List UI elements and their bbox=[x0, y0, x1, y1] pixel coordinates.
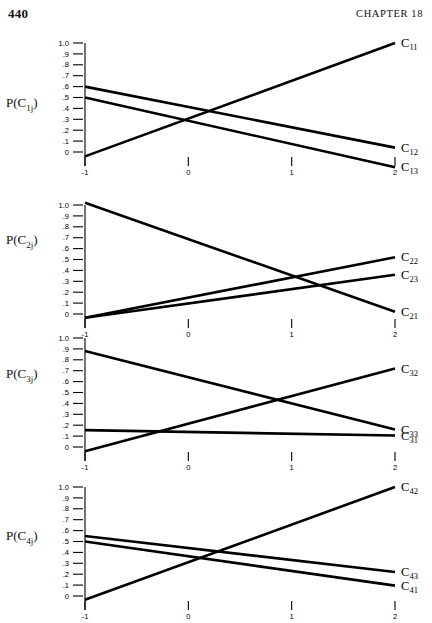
x-axis-tick-label: 1 bbox=[290, 463, 294, 472]
series-label-base: C bbox=[401, 362, 409, 376]
x-axis-tick-label: 1 bbox=[290, 612, 294, 621]
series-label-C11: C11 bbox=[401, 36, 418, 52]
series-label-subscript: 32 bbox=[409, 368, 418, 378]
series-label-subscript: 43 bbox=[409, 571, 418, 581]
y-axis-tick-label: 0 bbox=[65, 592, 69, 601]
series-label-C23: C23 bbox=[401, 268, 418, 284]
series-label-base: C bbox=[401, 250, 409, 264]
series-label-subscript: 11 bbox=[409, 42, 417, 52]
x-axis-tick-label: 2 bbox=[393, 612, 397, 621]
plot-area-1: 1.0.9.8.7.6.5.4.3.2.10-1012C11C12C13 bbox=[0, 28, 432, 188]
y-axis-tick-label: .7 bbox=[63, 233, 69, 242]
y-axis-tick-label: .1 bbox=[63, 299, 69, 308]
y-axis-tick-label: .7 bbox=[63, 366, 69, 375]
series-line-C22 bbox=[85, 257, 395, 317]
series-label-subscript: 13 bbox=[409, 166, 418, 176]
series-label-subscript: 22 bbox=[409, 256, 418, 266]
y-axis-tick-label: .4 bbox=[63, 104, 69, 113]
series-label-base: C bbox=[401, 429, 409, 443]
y-axis-tick-label: .8 bbox=[63, 60, 69, 69]
series-label-subscript: 21 bbox=[409, 311, 418, 321]
y-axis-tick-label: .8 bbox=[63, 355, 69, 364]
series-label-subscript: 42 bbox=[409, 486, 418, 496]
series-label-subscript: 12 bbox=[409, 147, 418, 157]
series-label-base: C bbox=[401, 141, 409, 155]
chart-panel-4: P(C4j)1.0.9.8.7.6.5.4.3.2.10-1012C42C43C… bbox=[0, 472, 432, 623]
x-axis-tick-label: 2 bbox=[393, 168, 397, 177]
series-label-C13: C13 bbox=[401, 160, 418, 176]
series-label-base: C bbox=[401, 36, 409, 50]
y-axis-tick-label: .5 bbox=[63, 537, 69, 546]
y-axis-tick-label: .3 bbox=[63, 277, 69, 286]
y-axis-tick-label: 0 bbox=[65, 443, 69, 452]
y-axis-tick-label: 1.0 bbox=[58, 201, 69, 210]
series-label-C21: C21 bbox=[401, 305, 418, 321]
y-axis-tick-label: .9 bbox=[63, 50, 69, 59]
series-label-base: C bbox=[401, 305, 409, 319]
y-axis-tick-label: .3 bbox=[63, 410, 69, 419]
series-label-base: C bbox=[401, 565, 409, 579]
y-axis-tick-label: 1.0 bbox=[58, 334, 69, 343]
series-label-base: C bbox=[401, 579, 409, 593]
series-label-base: C bbox=[401, 160, 409, 174]
y-axis-tick-label: .8 bbox=[63, 222, 69, 231]
y-axis-tick-label: .6 bbox=[63, 377, 69, 386]
x-axis-tick-label: 1 bbox=[290, 168, 294, 177]
y-axis-tick-label: .2 bbox=[63, 288, 69, 297]
running-head: 440 CHAPTER 18 bbox=[0, 6, 432, 24]
page-number: 440 bbox=[8, 6, 28, 22]
series-line-C43 bbox=[85, 536, 395, 572]
plot-area-3: 1.0.9.8.7.6.5.4.3.2.10-1012C32C33C31 bbox=[0, 323, 432, 483]
y-axis-tick-label: .8 bbox=[63, 504, 69, 513]
chart-panel-1: P(C1j)1.0.9.8.7.6.5.4.3.2.10-1012C11C12C… bbox=[0, 28, 432, 188]
plot-area-4: 1.0.9.8.7.6.5.4.3.2.10-1012C42C43C41 bbox=[0, 472, 432, 623]
y-axis-tick-label: 0 bbox=[65, 310, 69, 319]
series-label-C22: C22 bbox=[401, 250, 418, 266]
y-axis-tick-label: .4 bbox=[63, 266, 69, 275]
y-axis-tick-label: .9 bbox=[63, 212, 69, 221]
series-label-subscript: 31 bbox=[409, 435, 418, 445]
x-axis-tick-label: -1 bbox=[82, 612, 89, 621]
y-axis-tick-label: .5 bbox=[63, 255, 69, 264]
y-axis-tick-label: .2 bbox=[63, 421, 69, 430]
x-axis-tick-label: 2 bbox=[393, 463, 397, 472]
y-axis-tick-label: .7 bbox=[63, 71, 69, 80]
y-axis-tick-label: .3 bbox=[63, 559, 69, 568]
y-axis-tick-label: 1.0 bbox=[58, 483, 69, 492]
x-axis-tick-label: 0 bbox=[186, 168, 190, 177]
y-axis-tick-label: 0 bbox=[65, 148, 69, 157]
y-axis-tick-label: .7 bbox=[63, 515, 69, 524]
series-line-C42 bbox=[85, 487, 395, 600]
y-axis-tick-label: .5 bbox=[63, 93, 69, 102]
x-axis-tick-label: -1 bbox=[82, 168, 89, 177]
series-line-C13 bbox=[85, 98, 395, 168]
series-line-C41 bbox=[85, 542, 395, 586]
y-axis-tick-label: .4 bbox=[63, 548, 69, 557]
y-axis-tick-label: .2 bbox=[63, 570, 69, 579]
y-axis-tick-label: .9 bbox=[63, 494, 69, 503]
series-line-C31 bbox=[85, 430, 395, 435]
y-axis-tick-label: .6 bbox=[63, 82, 69, 91]
y-axis-tick-label: .6 bbox=[63, 244, 69, 253]
y-axis-tick-label: .6 bbox=[63, 526, 69, 535]
x-axis-tick-label: 0 bbox=[186, 612, 190, 621]
series-label-C41: C41 bbox=[401, 579, 418, 595]
series-label-subscript: 41 bbox=[409, 585, 418, 595]
y-axis-tick-label: .2 bbox=[63, 126, 69, 135]
x-axis-tick-label: 0 bbox=[186, 463, 190, 472]
series-label-C42: C42 bbox=[401, 480, 418, 496]
y-axis-tick-label: .4 bbox=[63, 399, 69, 408]
y-axis-tick-label: .1 bbox=[63, 137, 69, 146]
series-label-base: C bbox=[401, 480, 409, 494]
x-axis-tick-label: -1 bbox=[82, 463, 89, 472]
series-label-C12: C12 bbox=[401, 141, 418, 157]
series-label-subscript: 23 bbox=[409, 274, 418, 284]
chapter-label: CHAPTER 18 bbox=[356, 8, 423, 19]
series-label-base: C bbox=[401, 268, 409, 282]
y-axis-tick-label: .1 bbox=[63, 432, 69, 441]
y-axis-tick-label: 1.0 bbox=[58, 39, 69, 48]
y-axis-tick-label: .9 bbox=[63, 345, 69, 354]
y-axis-tick-label: .1 bbox=[63, 581, 69, 590]
series-line-C32 bbox=[85, 369, 395, 452]
